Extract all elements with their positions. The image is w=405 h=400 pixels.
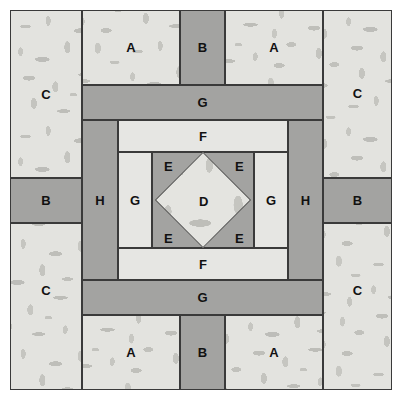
patch-b-left: B (10, 178, 82, 223)
patch-h-left: H (82, 120, 118, 280)
patch-a-bottom-left: A (82, 315, 180, 390)
patch-label: A (269, 41, 278, 54)
patch-label: A (269, 346, 278, 359)
patch-b-right: B (323, 178, 392, 223)
patch-c-bottom-right: C (323, 223, 392, 390)
patch-label: H (95, 194, 104, 207)
patch-label: H (301, 194, 310, 207)
patch-label: B (198, 346, 207, 359)
patch-label: G (197, 96, 207, 109)
patch-b-top: B (180, 10, 225, 85)
patch-label: B (198, 41, 207, 54)
patch-label: A (126, 346, 135, 359)
patch-label: B (353, 194, 362, 207)
patch-g-left: G (118, 152, 152, 248)
patch-c-bottom-left: C (10, 223, 82, 390)
fabric-texture (83, 11, 179, 84)
patch-label-e-top-right: E (235, 159, 244, 174)
patch-label-e-bottom-right: E (235, 231, 244, 246)
patch-a-top-left: A (82, 10, 180, 85)
patch-label-e-top-left: E (164, 159, 173, 174)
patch-h-right: H (288, 120, 323, 280)
patch-g-bottom: G (82, 280, 323, 315)
patch-c-top-left: C (10, 10, 82, 178)
fabric-texture (226, 11, 322, 84)
patch-label: C (41, 88, 50, 101)
quilt-block-diagram: C A B A C C C B B A B (0, 0, 405, 400)
patch-a-top-right: A (225, 10, 323, 85)
patch-label: G (266, 194, 276, 207)
fabric-texture (324, 224, 391, 389)
patch-label-d: D (199, 194, 208, 209)
fabric-texture (324, 11, 391, 177)
patch-g-top: G (82, 85, 323, 120)
patch-f-top: F (118, 120, 288, 152)
patch-c-top-right: C (323, 10, 392, 178)
patch-f-bottom: F (118, 248, 288, 280)
fabric-texture (83, 316, 179, 389)
patch-label: G (130, 194, 140, 207)
fabric-texture (11, 224, 81, 389)
fabric-texture (226, 316, 322, 389)
patch-label: F (199, 258, 207, 271)
fabric-texture (11, 11, 81, 177)
patch-label: C (11, 284, 81, 297)
patch-b-bottom: B (180, 315, 225, 390)
patch-label: C (324, 284, 391, 297)
patch-a-bottom-right: A (225, 315, 323, 390)
patch-label: B (41, 194, 50, 207)
patch-label: F (199, 130, 207, 143)
patch-g-right: G (254, 152, 288, 248)
patch-label: A (126, 41, 135, 54)
patch-label: G (197, 291, 207, 304)
patch-label-e-bottom-left: E (164, 231, 173, 246)
patch-label: C (324, 87, 391, 100)
